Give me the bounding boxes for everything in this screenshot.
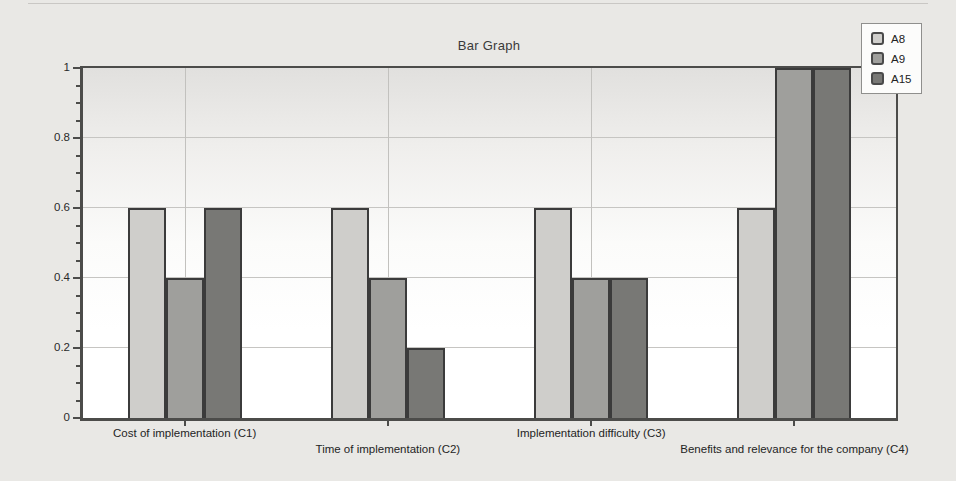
legend: A8A9A15: [861, 23, 922, 94]
y-tick-label: 0.6: [2, 201, 70, 213]
x-category-tick: [184, 421, 186, 426]
y-tick-label: 0.8: [2, 131, 70, 143]
legend-swatch-a8: [871, 32, 884, 45]
bar-a8-c2: [331, 208, 369, 418]
bar-a8-c4: [737, 208, 775, 418]
bar-a8-c1: [128, 208, 166, 418]
h-gridline: [83, 137, 896, 138]
y-minor-tick: [76, 260, 80, 262]
x-category-label: Benefits and relevance for the company (…: [680, 443, 908, 455]
bar-a9-c3: [572, 278, 610, 418]
y-minor-tick: [76, 85, 80, 87]
bar-chart-figure: Bar Graph 00.20.40.60.81 Cost of impleme…: [0, 0, 956, 481]
bar-a9-c2: [369, 278, 407, 418]
legend-item-a8: A8: [871, 32, 911, 45]
y-minor-tick: [76, 102, 80, 104]
bar-a15-c4: [813, 68, 851, 418]
legend-swatch-a9: [871, 52, 884, 65]
bar-a8-c3: [534, 208, 572, 418]
x-category-label: Implementation difficulty (C3): [517, 427, 666, 439]
bar-a9-c4: [775, 68, 813, 418]
y-tick-label: 0.2: [2, 341, 70, 353]
legend-item-label: A8: [891, 33, 905, 45]
legend-item-a15: A15: [871, 72, 911, 85]
y-minor-tick: [76, 120, 80, 122]
y-minor-tick: [76, 382, 80, 384]
plot-area: [80, 66, 898, 421]
x-category-label: Time of implementation (C2): [316, 443, 461, 455]
legend-item-a9: A9: [871, 52, 911, 65]
y-tick-label: 1: [2, 61, 70, 73]
y-minor-tick: [76, 242, 80, 244]
y-major-tick: [73, 137, 80, 139]
y-minor-tick: [76, 225, 80, 227]
x-category-tick: [793, 421, 795, 426]
y-minor-tick: [76, 365, 80, 367]
y-minor-tick: [76, 190, 80, 192]
legend-item-label: A9: [891, 53, 905, 65]
bar-a15-c2: [407, 348, 445, 418]
y-tick-label: 0.4: [2, 271, 70, 283]
y-minor-tick: [76, 172, 80, 174]
y-minor-tick: [76, 400, 80, 402]
legend-swatch-a15: [871, 72, 884, 85]
y-minor-tick: [76, 312, 80, 314]
y-minor-tick: [76, 330, 80, 332]
x-category-label: Cost of implementation (C1): [113, 427, 256, 439]
chart-title: Bar Graph: [80, 38, 898, 53]
y-major-tick: [73, 417, 80, 419]
top-rule-line: [28, 3, 928, 4]
y-tick-label: 0: [2, 411, 70, 423]
bar-a9-c1: [166, 278, 204, 418]
x-category-tick: [590, 421, 592, 426]
bar-a15-c1: [204, 208, 242, 418]
x-category-tick: [387, 421, 389, 426]
y-major-tick: [73, 207, 80, 209]
y-major-tick: [73, 347, 80, 349]
y-minor-tick: [76, 155, 80, 157]
y-major-tick: [73, 67, 80, 69]
y-minor-tick: [76, 295, 80, 297]
bar-a15-c3: [610, 278, 648, 418]
y-major-tick: [73, 277, 80, 279]
legend-item-label: A15: [891, 73, 911, 85]
